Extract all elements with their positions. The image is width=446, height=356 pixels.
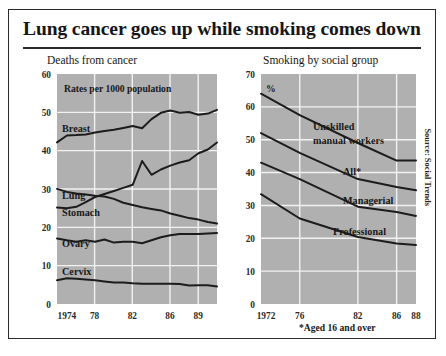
svg-text:86: 86 — [165, 311, 175, 321]
svg-text:1972: 1972 — [257, 311, 276, 321]
svg-text:30: 30 — [246, 201, 256, 211]
label-all: All* — [343, 166, 361, 177]
svg-text:82: 82 — [353, 311, 363, 321]
svg-text:82: 82 — [128, 311, 138, 321]
footnote-aged-16: *Aged 16 and over — [299, 322, 375, 333]
svg-text:0: 0 — [46, 300, 51, 310]
svg-text:86: 86 — [392, 311, 402, 321]
chart-frame: Lung cancer goes up while smoking comes … — [8, 9, 436, 339]
title-divider — [23, 47, 421, 49]
svg-text:89: 89 — [194, 311, 204, 321]
svg-text:0: 0 — [250, 300, 255, 310]
svg-text:70: 70 — [246, 70, 256, 80]
label-ovary: Ovary — [62, 238, 90, 249]
svg-text:10: 10 — [246, 267, 256, 277]
label-rates-per-1000: Rates per 1000 population — [64, 83, 172, 94]
deaths-from-cancer-svg: 60 50 40 30 20 10 0 1974 78 82 86 89 — [9, 68, 225, 330]
svg-text:50: 50 — [42, 108, 52, 118]
svg-text:88: 88 — [411, 311, 421, 321]
svg-text:20: 20 — [42, 223, 52, 233]
svg-text:50: 50 — [246, 135, 256, 145]
svg-text:78: 78 — [90, 311, 100, 321]
label-lung: Lung — [62, 190, 85, 201]
svg-text:60: 60 — [42, 70, 52, 80]
svg-text:40: 40 — [42, 146, 52, 156]
svg-text:76: 76 — [295, 311, 305, 321]
label-unskilled-line2: manual workers — [313, 135, 384, 146]
svg-text:20: 20 — [246, 234, 256, 244]
left-chart-plot: 60 50 40 30 20 10 0 1974 78 82 86 89 — [9, 68, 225, 334]
left-x-axis-labels: 1974 78 82 86 89 — [58, 311, 204, 321]
svg-text:60: 60 — [246, 102, 256, 112]
right-x-axis-labels: 1972 76 82 86 88 — [257, 311, 421, 321]
left-chart-title: Deaths from cancer — [47, 54, 137, 66]
label-managerial: Managerial — [343, 195, 394, 206]
label-breast: Breast — [62, 123, 91, 134]
right-chart-plot: 70 60 50 40 30 20 10 0 1972 76 82 86 88 — [225, 68, 437, 334]
label-percent: % — [266, 83, 276, 94]
svg-text:40: 40 — [246, 168, 256, 178]
right-plot-background — [261, 74, 416, 304]
left-y-axis-labels: 60 50 40 30 20 10 0 — [42, 70, 52, 310]
source-attribution: Source: Social Trends — [423, 128, 432, 206]
smoking-by-social-group-svg: 70 60 50 40 30 20 10 0 1972 76 82 86 88 — [225, 68, 437, 330]
right-y-axis-labels: 70 60 50 40 30 20 10 0 — [246, 70, 256, 310]
page-title: Lung cancer goes up while smoking comes … — [23, 18, 423, 40]
label-stomach: Stomach — [62, 207, 100, 218]
right-chart-title: Smoking by social group — [263, 54, 378, 66]
label-professional: Professional — [333, 226, 386, 237]
label-cervix: Cervix — [62, 266, 92, 277]
svg-text:1974: 1974 — [58, 311, 77, 321]
svg-text:30: 30 — [42, 185, 52, 195]
svg-text:10: 10 — [42, 261, 52, 271]
label-unskilled-line1: Unskilled — [313, 121, 355, 132]
